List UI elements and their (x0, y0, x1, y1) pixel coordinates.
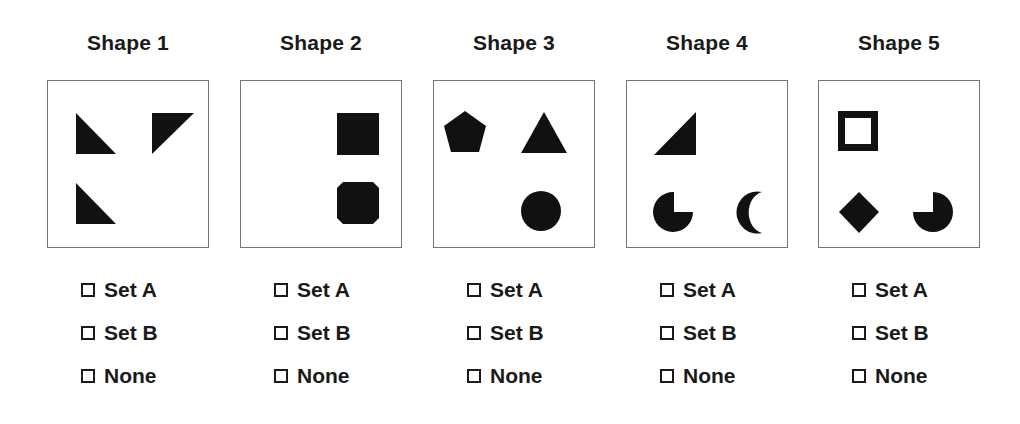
option-none[interactable]: None (852, 354, 929, 397)
option-set-a[interactable]: Set A (81, 268, 158, 311)
checkbox[interactable] (81, 283, 95, 297)
crescent-icon (736, 192, 762, 234)
checkbox[interactable] (467, 283, 481, 297)
option-none[interactable]: None (467, 354, 544, 397)
option-set-b[interactable]: Set B (467, 311, 544, 354)
option-label: Set A (683, 278, 736, 302)
option-none[interactable]: None (660, 354, 737, 397)
option-none[interactable]: None (81, 354, 158, 397)
checkbox[interactable] (81, 326, 95, 340)
option-label: Set B (490, 321, 544, 345)
shape-figure-box (626, 80, 788, 248)
pac-man-circle-icon (913, 192, 953, 232)
option-label: Set A (875, 278, 928, 302)
right-triangle-icon (76, 113, 116, 154)
shape-title: Shape 1 (47, 31, 209, 55)
option-label: Set B (875, 321, 929, 345)
option-set-a[interactable]: Set A (660, 268, 737, 311)
shape-title: Shape 5 (818, 31, 980, 55)
hollow-square-icon (842, 115, 875, 148)
checkbox[interactable] (852, 369, 866, 383)
answer-options: Set A Set B None (274, 268, 351, 397)
checkbox[interactable] (660, 283, 674, 297)
option-set-b[interactable]: Set B (660, 311, 737, 354)
shape-figure-box (240, 80, 402, 248)
option-label: Set A (297, 278, 350, 302)
octagon-icon (337, 182, 379, 224)
shape-2-figure (241, 81, 401, 247)
option-set-b[interactable]: Set B (852, 311, 929, 354)
shape-figure-box (47, 80, 209, 248)
option-set-b[interactable]: Set B (274, 311, 351, 354)
option-label: None (490, 364, 543, 388)
shape-title: Shape 3 (433, 31, 595, 55)
option-set-a[interactable]: Set A (467, 268, 544, 311)
shape-1-figure (48, 81, 208, 247)
option-label: None (297, 364, 350, 388)
option-label: Set B (104, 321, 158, 345)
checkbox[interactable] (660, 326, 674, 340)
shape-title: Shape 4 (626, 31, 788, 55)
pac-man-circle-icon (653, 192, 693, 232)
right-triangle-icon (152, 113, 194, 154)
answer-options: Set A Set B None (852, 268, 929, 397)
option-label: Set A (490, 278, 543, 302)
shape-5-figure (819, 81, 979, 247)
square-icon (337, 113, 379, 155)
option-label: None (683, 364, 736, 388)
option-label: Set B (297, 321, 351, 345)
option-set-a[interactable]: Set A (852, 268, 929, 311)
option-set-b[interactable]: Set B (81, 311, 158, 354)
shape-4-figure (627, 81, 787, 247)
shape-title: Shape 2 (240, 31, 402, 55)
shape-3-figure (434, 81, 594, 247)
checkbox[interactable] (274, 283, 288, 297)
checkbox[interactable] (467, 326, 481, 340)
checkbox[interactable] (660, 369, 674, 383)
answer-options: Set A Set B None (81, 268, 158, 397)
option-label: Set B (683, 321, 737, 345)
checkbox[interactable] (81, 369, 95, 383)
shape-figure-box (433, 80, 595, 248)
option-none[interactable]: None (274, 354, 351, 397)
pentagon-icon (444, 111, 486, 152)
option-set-a[interactable]: Set A (274, 268, 351, 311)
diamond-icon (839, 192, 879, 233)
triangle-icon (521, 112, 567, 153)
option-label: None (104, 364, 157, 388)
checkbox[interactable] (274, 326, 288, 340)
option-label: Set A (104, 278, 157, 302)
option-label: None (875, 364, 928, 388)
circle-icon (521, 191, 561, 231)
answer-options: Set A Set B None (467, 268, 544, 397)
checkbox[interactable] (852, 326, 866, 340)
right-triangle-icon (654, 112, 696, 155)
checkbox[interactable] (274, 369, 288, 383)
right-triangle-icon (76, 183, 116, 224)
answer-options: Set A Set B None (660, 268, 737, 397)
shape-figure-box (818, 80, 980, 248)
checkbox[interactable] (467, 369, 481, 383)
checkbox[interactable] (852, 283, 866, 297)
